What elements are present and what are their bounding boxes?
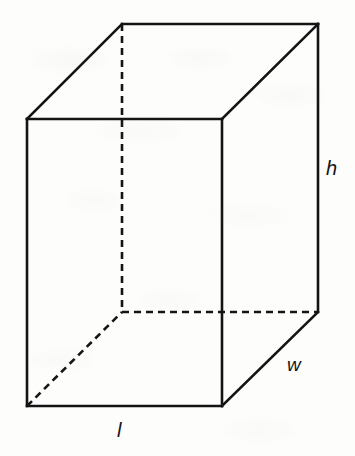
dimension-label-height: h: [326, 158, 337, 178]
hidden-edges-group: [27, 24, 318, 406]
prism-drawing: [0, 0, 355, 456]
edge-bottom-right-diagonal: [222, 312, 318, 406]
visible-edges-group: [27, 24, 318, 406]
prism-figure: h w l: [0, 0, 355, 456]
dimension-label-width: w: [287, 355, 301, 374]
edge-top-left-diagonal: [27, 24, 122, 119]
edge-bottom-left-diagonal-dashed: [27, 312, 122, 406]
dimension-label-length: l: [117, 420, 121, 440]
edge-top-right-diagonal: [222, 24, 318, 119]
